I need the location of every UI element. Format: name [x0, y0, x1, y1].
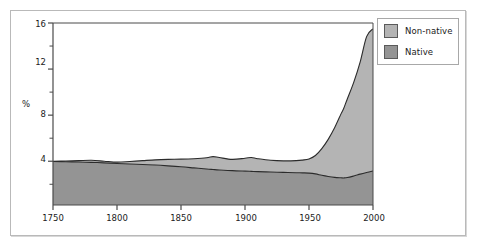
- y-tick-label-4: 4: [24, 154, 46, 164]
- legend-item-non-native: Non-native: [384, 24, 453, 38]
- y-axis-title: %: [22, 99, 30, 109]
- x-tick-label-1900: 1900: [231, 213, 261, 223]
- legend-swatch-native: [384, 45, 398, 59]
- legend-label-non-native: Non-native: [405, 26, 453, 36]
- x-tick-label-1850: 1850: [166, 213, 196, 223]
- legend-label-native: Native: [405, 47, 433, 57]
- x-tick-label-1950: 1950: [295, 213, 325, 223]
- x-tick-label-1750: 1750: [38, 213, 68, 223]
- chart-legend: Non-native Native: [377, 18, 459, 65]
- chart-figure: 16 12 8 4 % 1750 1800 1850 1900 1950 200…: [0, 0, 477, 250]
- x-tick-label-1800: 1800: [102, 213, 132, 223]
- legend-swatch-non-native: [384, 24, 398, 38]
- y-tick-label-16: 16: [24, 19, 46, 29]
- y-tick-label-12: 12: [24, 57, 46, 67]
- legend-item-native: Native: [384, 45, 433, 59]
- y-tick-label-8: 8: [24, 109, 46, 119]
- x-tick-label-2000: 2000: [359, 213, 389, 223]
